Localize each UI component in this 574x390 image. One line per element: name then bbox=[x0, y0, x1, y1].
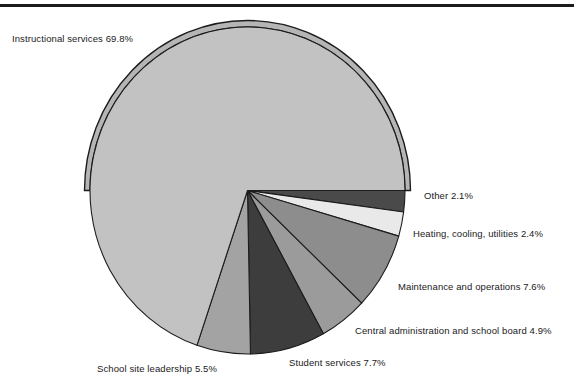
label-maintenance-and-operations: Maintenance and operations 7.6% bbox=[398, 281, 545, 293]
label-heating-cooling-utilities: Heating, cooling, utilities 2.4% bbox=[413, 228, 543, 240]
pie-chart-figure: Instructional services 69.8% Other 2.1% … bbox=[0, 0, 574, 390]
label-central-administration: Central administration and school board … bbox=[355, 325, 552, 337]
label-student-services: Student services 7.7% bbox=[289, 357, 386, 369]
label-instructional-services: Instructional services 69.8% bbox=[12, 33, 133, 45]
label-other: Other 2.1% bbox=[424, 190, 473, 202]
label-school-site-leadership: School site leadership 5.5% bbox=[97, 363, 217, 375]
pie-slices bbox=[90, 27, 405, 354]
